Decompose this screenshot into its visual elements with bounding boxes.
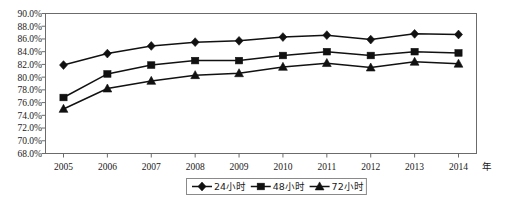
x-axis-tick-label: 2014: [449, 162, 468, 172]
x-axis-tick-label: 2012: [361, 162, 380, 172]
y-axis-tick-label: 86.0%: [17, 34, 42, 44]
x-axis-tick-label: 2008: [186, 162, 205, 172]
y-axis-tick-label: 82.0%: [17, 60, 42, 70]
data-point-square: [411, 48, 418, 55]
data-point-square: [235, 57, 242, 64]
legend-items: 24小时48小时72小时: [192, 181, 364, 192]
x-axis-tick-label: 2009: [230, 162, 249, 172]
x-axis-tick-label: 2007: [142, 162, 161, 172]
x-axis-tick-label: 2005: [54, 162, 73, 172]
x-axis-unit-label: 年: [482, 161, 492, 172]
data-point-square: [323, 48, 330, 55]
data-point-square: [257, 183, 264, 190]
y-axis-tick-label: 72.0%: [17, 123, 42, 133]
y-axis-tick-label: 70.0%: [17, 136, 42, 146]
data-point-square: [455, 50, 462, 57]
y-axis-tick-label: 74.0%: [17, 111, 42, 121]
x-axis-tick-label: 2006: [98, 162, 117, 172]
legend-label: 48小时: [273, 181, 305, 192]
chart-container: 90.0%88.0%86.0%84.0%82.0%80.0%78.0%76.0%…: [0, 0, 515, 206]
y-axis-tick-label: 76.0%: [17, 98, 42, 108]
y-axis-tick-label: 90.0%: [17, 9, 42, 19]
y-axis-tick-label: 68.0%: [17, 149, 42, 159]
data-point-square: [279, 52, 286, 59]
legend-label: 24小时: [214, 181, 246, 192]
data-point-square: [148, 62, 155, 69]
data-point-square: [104, 71, 111, 78]
data-point-square: [192, 57, 199, 64]
x-axis-tick-label: 2011: [318, 162, 337, 172]
x-axis-tick-label: 2013: [405, 162, 424, 172]
x-axis-tick-label: 2010: [273, 162, 292, 172]
y-axis-tick-label: 80.0%: [17, 73, 42, 83]
data-point-square: [367, 52, 374, 59]
legend-label: 72小时: [332, 181, 364, 192]
y-axis-tick-label: 78.0%: [17, 85, 42, 95]
y-axis-tick-label: 88.0%: [17, 22, 42, 32]
line-chart: 90.0%88.0%86.0%84.0%82.0%80.0%78.0%76.0%…: [0, 0, 515, 206]
chart-legend: 24小时48小时72小时: [187, 179, 367, 195]
data-point-square: [60, 94, 67, 101]
y-axis-tick-label: 84.0%: [17, 47, 42, 57]
